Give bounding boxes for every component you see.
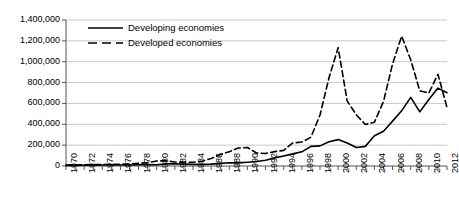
x-axis-tick-label: 1986 <box>215 153 224 173</box>
x-axis-tick-label: 1988 <box>233 153 242 173</box>
y-axis-tick-label: 800,000 <box>0 78 60 87</box>
series-line-developed <box>66 36 447 165</box>
y-axis-tick-label: 200,000 <box>0 140 60 149</box>
y-axis-tick-label: 1,000,000 <box>0 57 60 66</box>
x-axis-tick-label: 1990 <box>251 153 260 173</box>
x-axis-tick-label: 1978 <box>143 153 152 173</box>
line-chart-plot <box>0 0 459 204</box>
x-axis-tick-label: 1980 <box>161 153 170 173</box>
y-axis-tick-label: 400,000 <box>0 119 60 128</box>
x-axis-tick-label: 1972 <box>88 153 97 173</box>
x-axis-tick-label: 2004 <box>378 153 387 173</box>
legend-label-developing: Developing economies <box>128 23 224 33</box>
x-axis-tick-label: 2006 <box>397 153 406 173</box>
x-axis-tick-label: 2002 <box>360 153 369 173</box>
chart-container: 1,400,0001,200,0001,000,000800,000600,00… <box>0 0 459 204</box>
x-axis-tick-label: 2010 <box>433 153 442 173</box>
x-axis-tick-label: 1976 <box>124 153 133 173</box>
x-axis-tick-label: 1984 <box>197 153 206 173</box>
x-axis-tick-label: 2008 <box>415 153 424 173</box>
x-axis-tick-label: 1994 <box>288 153 297 173</box>
data-series-layer <box>66 36 447 165</box>
y-axis-tick-label: 0 <box>0 161 60 170</box>
y-axis-tick-label: 1,200,000 <box>0 36 60 45</box>
x-axis-tick-label: 1974 <box>106 153 115 173</box>
y-axis-tick-label: 600,000 <box>0 98 60 107</box>
legend-label-developed: Developed economies <box>128 38 222 48</box>
x-axis-tick-label: 1970 <box>70 153 79 173</box>
x-axis-tick-label: 1982 <box>179 153 188 173</box>
y-axis-tick-label: 1,400,000 <box>0 15 60 24</box>
x-axis-tick-label: 1996 <box>306 153 315 173</box>
x-axis-tick-label: 2000 <box>342 153 351 173</box>
y-axis-tick-marks <box>62 20 66 166</box>
gridlines <box>66 20 447 145</box>
axes <box>66 20 447 166</box>
x-axis-tick-label: 1998 <box>324 153 333 173</box>
x-axis-tick-label: 2012 <box>451 153 459 173</box>
x-axis-tick-label: 1992 <box>270 153 279 173</box>
